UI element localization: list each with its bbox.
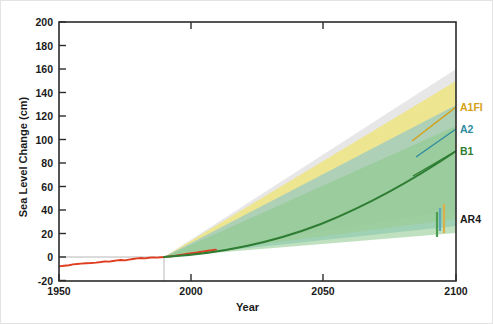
x-tick-label: 1950 bbox=[47, 285, 71, 297]
y-tick-label: 180 bbox=[35, 40, 53, 52]
y-tick-label: 0 bbox=[47, 251, 53, 263]
y-axis-title: Sea Level Change (cm) bbox=[17, 87, 29, 227]
chart-canvas: 200 180 160 140 120 100 80 60 40 20 0 -2… bbox=[1, 1, 493, 324]
y-tick-label: 80 bbox=[41, 157, 53, 169]
x-tick-label: 2050 bbox=[311, 285, 335, 297]
x-tick-label: 2000 bbox=[179, 285, 203, 297]
y-tick-label: 20 bbox=[41, 228, 53, 240]
y-tick-label: 100 bbox=[35, 134, 53, 146]
x-axis-title: Year bbox=[1, 301, 493, 313]
y-tick-label: 40 bbox=[41, 204, 53, 216]
scenario-label-b1: B1 bbox=[460, 145, 474, 157]
y-tick-label: 60 bbox=[41, 181, 53, 193]
sea-level-chart-figure: 200 180 160 140 120 100 80 60 40 20 0 -2… bbox=[0, 0, 493, 324]
scenario-label-a1fi: A1FI bbox=[460, 101, 483, 113]
y-tick-label: 160 bbox=[35, 63, 53, 75]
y-tick-label: 200 bbox=[35, 16, 53, 28]
scenario-label-a2: A2 bbox=[460, 123, 474, 135]
y-tick-label: 120 bbox=[35, 110, 53, 122]
scenario-label-ar4: AR4 bbox=[460, 213, 481, 225]
y-tick-label: 140 bbox=[35, 87, 53, 99]
y-axis-tick-labels: 200 180 160 140 120 100 80 60 40 20 0 -2… bbox=[35, 16, 53, 287]
x-tick-label: 2100 bbox=[444, 285, 468, 297]
x-axis-tick-labels: 1950 2000 2050 2100 bbox=[47, 285, 468, 297]
